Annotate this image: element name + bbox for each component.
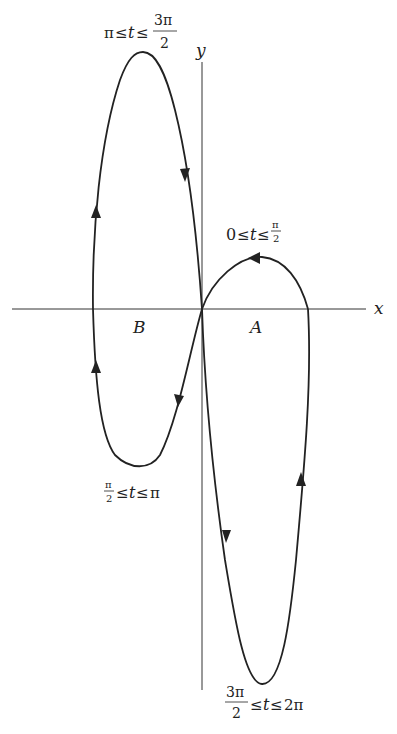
curve-segment-3 [93,52,202,309]
svg-text:≤: ≤ [136,484,149,502]
svg-text:3π: 3π [154,12,172,28]
svg-text:0: 0 [226,225,236,244]
svg-text:2: 2 [160,35,169,51]
svg-text:≤: ≤ [257,226,270,244]
arrow-icon [222,530,231,543]
svg-text:2π: 2π [284,696,304,714]
arrow-icon [174,394,184,407]
curve-segment-2 [93,309,202,466]
svg-text:2: 2 [273,233,279,244]
parametric-curve-diagram: x y A B 0 ≤ t ≤ π 2 π 2 ≤ t ≤ π π ≤ t ≤ [0,0,397,734]
arrow-icon [91,360,101,373]
svg-text:t: t [250,225,257,244]
svg-text:π: π [272,219,279,230]
svg-text:π: π [105,479,112,490]
curve-segment-1 [202,257,308,309]
curve-segment-4 [202,309,309,684]
svg-text:t: t [128,23,135,42]
segment-label-3: π ≤ t ≤ 3π 2 [104,12,177,51]
region-label-a: A [248,317,262,337]
x-axis-label: x [374,298,384,318]
svg-text:2: 2 [232,705,241,721]
svg-text:≤: ≤ [250,696,263,714]
region-label-b: B [132,317,146,337]
svg-text:π: π [104,24,114,42]
svg-text:π: π [150,484,160,502]
svg-text:≤: ≤ [270,696,283,714]
svg-text:t: t [263,695,270,714]
segment-label-1: 0 ≤ t ≤ π 2 [226,219,281,244]
segment-label-2: π 2 ≤ t ≤ π [104,479,160,504]
arrow-icon [296,472,306,486]
segment-label-4: 3π 2 ≤ t ≤ 2π [225,684,304,721]
arrow-icon [91,205,101,218]
svg-text:t: t [129,483,136,502]
svg-text:≤: ≤ [115,24,128,42]
arrow-icon [248,252,260,264]
y-axis-label: y [195,40,206,60]
svg-text:≤: ≤ [237,226,250,244]
svg-text:2: 2 [106,493,112,504]
svg-text:≤: ≤ [136,24,149,42]
svg-text:≤: ≤ [116,484,129,502]
svg-text:3π: 3π [226,684,244,700]
